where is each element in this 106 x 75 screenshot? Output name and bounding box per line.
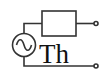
impedance-box — [42, 11, 76, 36]
sine-wave-icon — [17, 40, 32, 51]
thevenin-label: Th — [39, 39, 69, 69]
thevenin-circuit-diagram: Th — [0, 0, 106, 75]
top-left-wire — [24, 24, 42, 34]
bottom-terminal[interactable] — [94, 64, 98, 68]
top-terminal[interactable] — [94, 22, 98, 26]
